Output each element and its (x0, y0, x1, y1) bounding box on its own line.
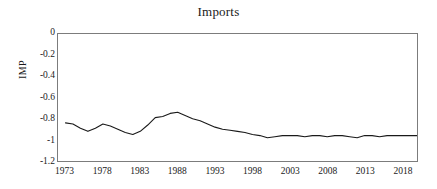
y-tick-label: 0 (7, 28, 55, 38)
chart-title: Imports (0, 4, 437, 20)
y-tick-label: -0.2 (7, 50, 55, 60)
x-axis-tick-labels: 1973197819831988199319982003200820132018 (0, 167, 437, 183)
x-tick-label: 2018 (381, 167, 425, 177)
y-tick-label: -0.6 (7, 93, 55, 103)
y-tick-label: -1 (7, 136, 55, 146)
series-line-imp (58, 34, 417, 161)
plot-area (57, 33, 418, 162)
y-axis-tick-labels: 0-0.2-0.4-0.6-0.8-1-1.2 (0, 0, 55, 189)
y-tick-label: -1.2 (7, 157, 55, 167)
imp-line (65, 112, 417, 137)
chart-figure: Imports IMP 0-0.2-0.4-0.6-0.8-1-1.2 1973… (0, 0, 437, 189)
y-tick-label: -0.4 (7, 71, 55, 81)
y-tick-label: -0.8 (7, 114, 55, 124)
